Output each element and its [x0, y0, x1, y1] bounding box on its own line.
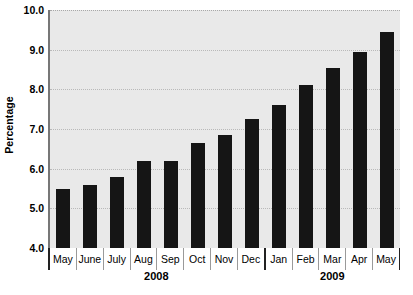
bar-slot: [158, 10, 185, 248]
bar-slot: [50, 10, 77, 248]
bar-slot: [346, 10, 373, 248]
bar-slot: [373, 10, 400, 248]
bars-container: [50, 10, 400, 248]
y-axis-tick-label: 9.0: [29, 44, 44, 56]
bar-slot: [238, 10, 265, 248]
y-axis-tick-label: 4.0: [29, 242, 44, 254]
x-axis-month-label: Dec: [237, 248, 264, 270]
bar: [56, 189, 70, 249]
x-axis-month-label: May: [50, 248, 76, 270]
y-axis-tick-labels: 10.09.08.07.06.05.04.0: [16, 8, 46, 248]
bar: [353, 52, 367, 248]
y-axis-tick-label: 8.0: [29, 83, 44, 95]
x-axis-month-label: Nov: [210, 248, 237, 270]
x-axis-month-label: Aug: [130, 248, 157, 270]
bar-slot: [185, 10, 212, 248]
y-axis-tick-label: 6.0: [29, 163, 44, 175]
x-axis-month-label: Oct: [183, 248, 210, 270]
plot-inner: [50, 10, 400, 248]
bar: [245, 119, 259, 248]
x-axis-month-label: May: [372, 248, 399, 270]
bar: [137, 161, 151, 248]
bar-chart: Percentage 10.09.08.07.06.05.04.0 MayJun…: [0, 0, 413, 295]
x-axis-year-label: 2009: [265, 270, 400, 282]
x-axis-year-label: 2008: [48, 270, 265, 282]
bar-slot: [131, 10, 158, 248]
bar: [191, 143, 205, 248]
bar: [83, 185, 97, 248]
bar: [272, 105, 286, 248]
x-axis-month-label: July: [103, 248, 130, 270]
bar: [326, 68, 340, 248]
bar: [218, 135, 232, 248]
x-axis-month-label: Sep: [156, 248, 183, 270]
x-axis-month-labels: MayJuneJulyAugSepOctNovDecJanFebMarAprMa…: [48, 248, 400, 270]
bar-slot: [212, 10, 239, 248]
y-axis-tick-label: 10.0: [24, 4, 44, 16]
bar-slot: [265, 10, 292, 248]
x-axis-month-label: Apr: [345, 248, 372, 270]
x-axis-year-labels: 20082009: [48, 270, 400, 288]
y-axis-tick-label: 5.0: [29, 202, 44, 214]
bar-slot: [77, 10, 104, 248]
x-axis-month-label: Jan: [264, 248, 292, 270]
bar: [110, 177, 124, 248]
bar-slot: [292, 10, 319, 248]
x-axis-month-label: June: [76, 248, 103, 270]
y-axis-tick-label: 7.0: [29, 123, 44, 135]
x-axis-month-label: Mar: [318, 248, 345, 270]
plot-area: [48, 10, 400, 248]
bar-slot: [319, 10, 346, 248]
bar: [164, 161, 178, 248]
bar: [380, 32, 394, 248]
x-axis-month-label: Feb: [292, 248, 319, 270]
y-axis-title-label: Percentage: [3, 96, 15, 154]
bar: [299, 85, 313, 248]
bar-slot: [104, 10, 131, 248]
